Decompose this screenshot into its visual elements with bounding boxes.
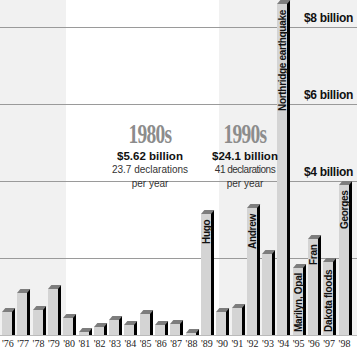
- x-axis-label: '82: [94, 338, 106, 349]
- x-axis-label: '98: [339, 338, 351, 349]
- bar-annotation: Georges: [339, 190, 350, 228]
- x-axis-label: '87: [170, 338, 182, 349]
- disaster-cost-chart: $8 billion$6 billion$4 billion HugoAndre…: [0, 0, 357, 353]
- x-axis-label: '89: [201, 338, 213, 349]
- bar-annotation: Fran: [308, 244, 319, 264]
- bar-annotation: Dakota floods: [323, 270, 334, 332]
- x-axis-label: '94: [277, 338, 289, 349]
- bar-81: [79, 0, 92, 335]
- x-axis-label: '97: [323, 338, 335, 349]
- decade-1980s-summary: 1980s $5.62 billion 23.7 declarations pe…: [100, 120, 200, 190]
- x-axis-label: '85: [140, 338, 152, 349]
- bar-98: [339, 0, 352, 335]
- x-axis-label: '77: [17, 338, 29, 349]
- decade-title: 1980s: [114, 120, 186, 148]
- x-axis-label: '96: [308, 338, 320, 349]
- decade-declarations: 23.7 declarations: [100, 164, 200, 176]
- x-axis-label: '83: [109, 338, 121, 349]
- x-axis-label: '79: [48, 338, 60, 349]
- decade-per-year: per year: [100, 178, 200, 190]
- bar-annotation: Hugo: [201, 219, 212, 243]
- x-axis-label: '78: [33, 338, 45, 349]
- x-axis-label: '90: [216, 338, 228, 349]
- bar-annotation: Andrew: [247, 214, 258, 249]
- x-axis-label: '84: [124, 338, 136, 349]
- bar-annotation: Northridge earthquake: [277, 10, 288, 111]
- x-axis-label: '88: [186, 338, 198, 349]
- decade-1990s-summary: 1990s $24.1 billion 41 declarations per …: [210, 120, 280, 190]
- decade-total: $5.62 billion: [100, 150, 200, 162]
- decade-per-year: per year: [210, 178, 280, 190]
- baseline: [0, 335, 357, 336]
- decade-total: $24.1 billion: [210, 150, 280, 162]
- decade-title: 1990s: [220, 120, 270, 148]
- x-axis-label: '76: [2, 338, 14, 349]
- bar-78: [33, 0, 46, 335]
- x-axis-label: '80: [63, 338, 75, 349]
- x-axis-label: '95: [293, 338, 305, 349]
- x-axis-label: '86: [155, 338, 167, 349]
- x-axis-label: '92: [247, 338, 259, 349]
- x-axis-label: '81: [79, 338, 91, 349]
- bar-96: [308, 0, 321, 335]
- decade-declarations: 41 declarations: [210, 164, 280, 176]
- bar-76: [2, 0, 15, 335]
- bar-annotation: Marilyn, Opal: [293, 273, 304, 332]
- bar-79: [48, 0, 61, 335]
- x-axis-label: '91: [232, 338, 244, 349]
- bar-77: [17, 0, 30, 335]
- bar-80: [63, 0, 76, 335]
- x-axis-label: '93: [262, 338, 274, 349]
